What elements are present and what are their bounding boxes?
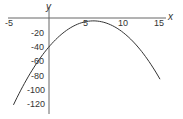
y-tick-label: -80	[31, 71, 44, 81]
chart: x -5 5 10 15 y -20 -40 -60 -80 -100 -120	[0, 0, 183, 119]
x-axis-label: x	[167, 11, 174, 22]
x-tick-label: -5	[5, 18, 13, 28]
x-axis: x -5 5 10 15	[5, 11, 174, 28]
y-tick-label: -40	[31, 42, 44, 52]
y-axis-label: y	[45, 1, 52, 12]
y-tick-label: -20	[31, 28, 44, 38]
y-tick-label: -60	[31, 56, 44, 66]
x-tick-label: 5	[83, 18, 88, 28]
x-tick-label: 15	[154, 18, 164, 28]
y-tick-label: -120	[27, 99, 45, 109]
x-tick-label: 10	[118, 18, 128, 28]
y-tick-label: -100	[27, 85, 45, 95]
